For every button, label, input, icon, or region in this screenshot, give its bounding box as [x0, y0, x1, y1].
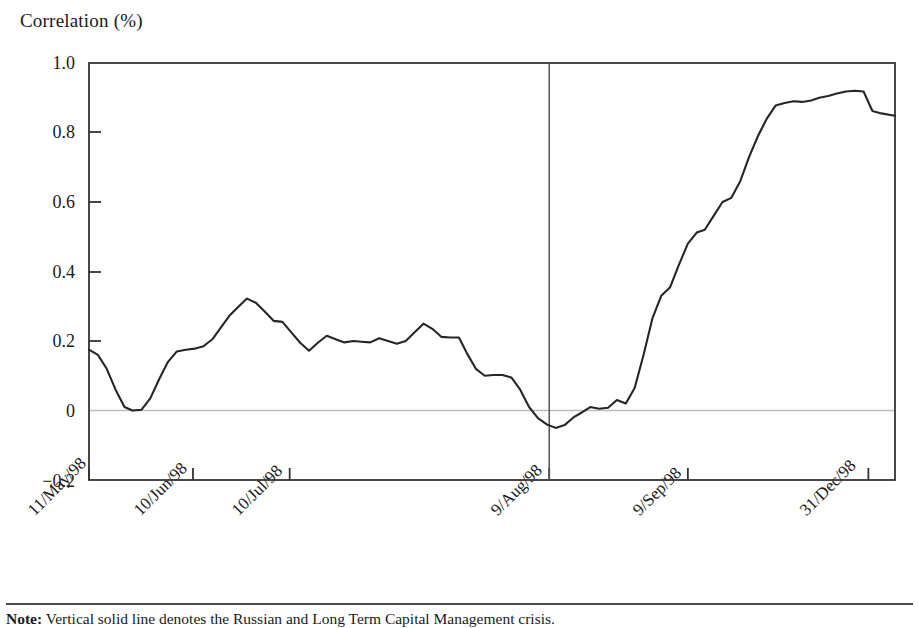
y-tick-label: 0.2 — [20, 331, 75, 352]
y-axis-title: Correlation (%) — [20, 10, 143, 32]
y-tick-label: 0 — [20, 401, 75, 422]
y-tick-label: 0.6 — [20, 192, 75, 213]
correlation-series-line — [89, 91, 895, 428]
x-tick-label: 9/Sep/98 — [629, 463, 686, 520]
y-tick-label: 1.0 — [20, 53, 75, 74]
footer-note-prefix: Note: — [6, 610, 42, 627]
x-tick-label: 9/Aug/98 — [487, 461, 547, 521]
footer-note: Note: Vertical solid line denotes the Ru… — [6, 609, 913, 628]
x-tick-label: 10/Jun/98 — [130, 459, 192, 521]
footer-divider — [6, 603, 913, 605]
footer-note-text: Vertical solid line denotes the Russian … — [42, 610, 555, 627]
x-tick-label: 31/Dec/98 — [796, 456, 860, 520]
x-axis-ticks — [89, 468, 868, 480]
x-tick-label: 10/Jul/98 — [228, 461, 287, 520]
y-axis-ticks — [89, 132, 101, 341]
y-tick-label: 0.8 — [20, 122, 75, 143]
y-tick-label: 0.4 — [20, 262, 75, 283]
plot-frame — [89, 63, 895, 480]
